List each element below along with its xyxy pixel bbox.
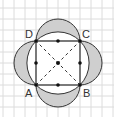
vertex-dot-a [34,83,38,87]
label-a: A [25,87,33,99]
geometry-diagram: A B C D [0,0,114,117]
midpoint-dot-bottom [56,83,60,87]
label-d: D [25,28,33,40]
label-b: B [83,87,90,99]
vertex-dot-b [78,83,82,87]
midpoint-dot-right [78,61,82,65]
midpoint-dot-left [34,61,38,65]
label-c: C [82,28,90,40]
midpoint-dot-top [56,39,60,43]
vertex-dot-d [34,39,38,43]
center-dot [56,61,60,65]
